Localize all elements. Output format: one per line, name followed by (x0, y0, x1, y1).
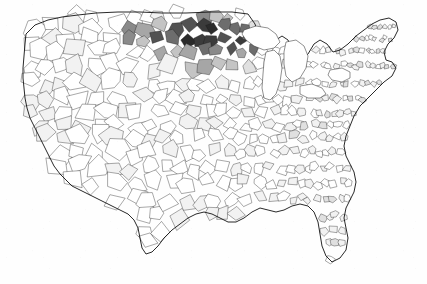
county-polygon (126, 104, 141, 120)
county-polygon (322, 81, 329, 87)
county-polygon (63, 39, 85, 56)
county-polygon (384, 65, 389, 70)
county-polygon (329, 226, 337, 233)
county-polygon (254, 163, 263, 175)
county-polygon (288, 177, 298, 185)
us-county-choropleth-map (0, 0, 427, 284)
county-polygon (358, 48, 365, 53)
figure-container (0, 0, 427, 284)
county-polygon (330, 239, 339, 246)
